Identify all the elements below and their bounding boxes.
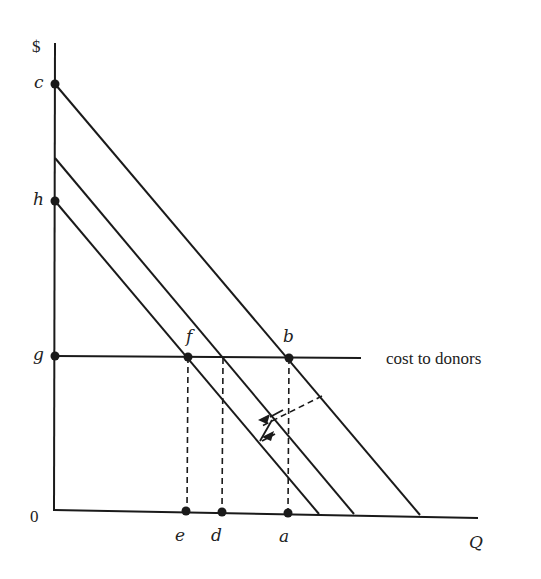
label-f: f (184, 326, 195, 346)
label-d: d (211, 525, 222, 545)
x-axis (54, 510, 478, 518)
middle-demand-line (55, 158, 354, 514)
dashed-line-d (222, 358, 223, 512)
cost-to-donors-line (55, 356, 361, 358)
y-axis (54, 43, 55, 511)
origin-label: 0 (30, 507, 39, 526)
upper-demand-line (55, 84, 420, 515)
label-e: e (175, 525, 185, 545)
point-a (284, 509, 293, 518)
label-h: h (33, 189, 44, 209)
point-e (182, 507, 191, 516)
point-b (285, 354, 294, 363)
point-f (184, 353, 193, 362)
diagram-canvas: $ c h g 0 f b e d a Q cost to donors (0, 0, 541, 579)
label-b: b (283, 326, 294, 346)
dashed-line-f-e (187, 357, 188, 511)
point-c (51, 80, 60, 89)
x-axis-label: Q (469, 532, 483, 552)
label-a: a (279, 526, 289, 546)
arrow-up-icon (258, 414, 270, 424)
y-axis-label: $ (32, 37, 41, 56)
point-h (51, 197, 60, 206)
label-g: g (33, 344, 44, 364)
point-g (51, 352, 60, 361)
point-d (218, 508, 227, 517)
cost-to-donors-label: cost to donors (386, 349, 481, 368)
label-c: c (34, 72, 44, 92)
